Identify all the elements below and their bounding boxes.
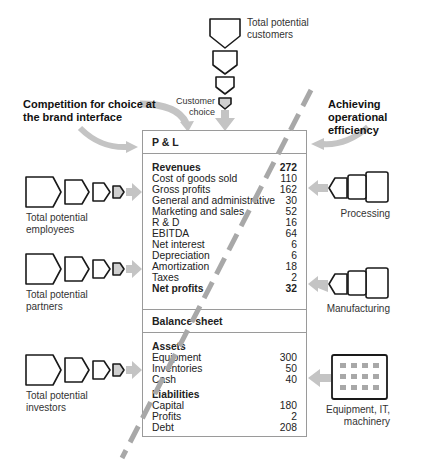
operational-heading: Achieving operational efficiency — [328, 98, 436, 137]
equipment-label: Equipment, IT, machinery — [320, 404, 390, 428]
partners-label: Total potential partners — [26, 289, 88, 313]
employees-label: Total potential employees — [26, 212, 88, 236]
investors-label: Total potential investors — [26, 390, 88, 414]
processing-label: Processing — [340, 208, 390, 220]
customers-label: Total potential customers — [247, 17, 309, 41]
manufacturing-label: Manufacturing — [320, 303, 390, 315]
competition-heading: Competition for choice at the brand inte… — [23, 98, 156, 124]
customer-choice-label: Customer choice — [172, 96, 215, 118]
